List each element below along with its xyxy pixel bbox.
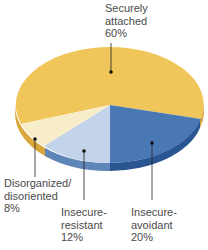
label-securely-attached: Securely attached 60%: [105, 2, 148, 40]
label-value: 20%: [131, 231, 177, 244]
label-value: 12%: [61, 231, 107, 244]
label-line: Disorganized/: [4, 177, 71, 190]
label-value: 60%: [105, 27, 148, 40]
label-line: resistant: [61, 219, 107, 232]
label-line: avoidant: [131, 219, 177, 232]
label-line: Securely: [105, 2, 148, 15]
label-insecure-avoidant: Insecure- avoidant 20%: [131, 206, 177, 244]
label-line: attached: [105, 15, 148, 28]
label-line: Insecure-: [61, 206, 107, 219]
label-line: Insecure-: [131, 206, 177, 219]
label-line: disoriented: [4, 190, 71, 203]
label-insecure-resistant: Insecure- resistant 12%: [61, 206, 107, 244]
